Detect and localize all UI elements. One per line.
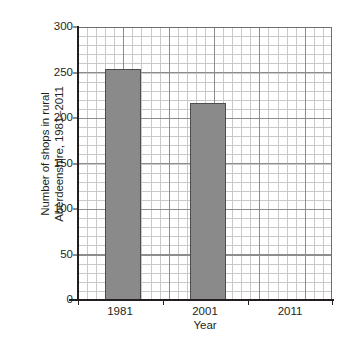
x-tick-label-1981: 1981 [85,304,155,318]
x-tick-mark-start [78,300,79,305]
y-tick-label-250: 250 [40,67,73,79]
bar-1981 [105,69,141,300]
y-tick-label-50: 50 [40,249,73,261]
y-tick-label-100: 100 [40,203,73,215]
y-tick-label-300: 300 [40,21,73,33]
bar-chart-figure: Number of shops in rural Aberdeenshire, … [0,0,347,342]
x-tick-mark-end [332,300,333,305]
x-tick-label-2001: 2001 [170,304,240,318]
x-axis-title: Year [78,319,332,332]
y-axis-line [77,26,79,301]
y-tick-label-200: 200 [40,112,73,124]
x-axis-line [69,299,334,301]
y-tick-label-150: 150 [40,158,73,170]
x-tick-mark-1 [163,300,164,305]
x-tick-label-2011: 2011 [255,304,325,318]
x-tick-mark-2 [248,300,249,305]
plot-area [78,27,332,300]
y-axis-tick-labels: 300 250 200 150 100 50 0 [40,0,73,342]
bar-2001 [190,103,226,300]
